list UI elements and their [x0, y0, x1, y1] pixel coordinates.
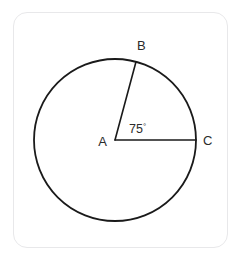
- degree-symbol-icon: °: [143, 122, 146, 131]
- angle-measure-label: 75°: [129, 122, 146, 137]
- vertex-label-c: C: [203, 133, 212, 148]
- vertex-label-b: B: [137, 38, 146, 53]
- vertex-label-a: A: [98, 134, 107, 149]
- angle-value: 75: [129, 122, 143, 136]
- figure-root: A B C 75°: [0, 0, 243, 262]
- geometry-diagram: A B C 75°: [0, 0, 243, 262]
